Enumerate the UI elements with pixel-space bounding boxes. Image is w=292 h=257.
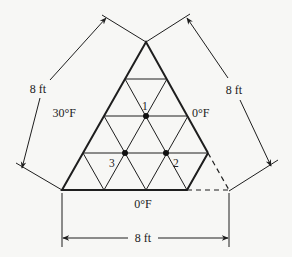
node-1-label: 1	[142, 100, 148, 112]
nodes	[122, 113, 169, 156]
bottom-edge-temperature: 0°F	[134, 197, 152, 211]
mesh-diagram: 1 2 3 30°F 0°F 0°F 8 ft 8 ft 8 ft	[0, 0, 292, 257]
left-dim-line-lower	[22, 98, 40, 168]
node-2-label: 2	[173, 157, 179, 169]
left-extension-bottom	[16, 163, 62, 190]
right-dim-line-upper	[187, 18, 228, 78]
right-edge-temperature: 0°F	[192, 106, 210, 120]
left-dimension-label: 8 ft	[30, 82, 47, 96]
left-edge-temperature: 30°F	[53, 106, 77, 120]
left-extension-top	[102, 15, 146, 42]
right-dim-line-lower	[240, 100, 271, 166]
bottom-dimension-label: 8 ft	[135, 231, 152, 245]
dashed-corner	[187, 153, 229, 190]
right-dimension-label: 8 ft	[226, 83, 243, 97]
node-2-dot	[163, 150, 169, 156]
left-dimension	[16, 15, 146, 190]
node-1-dot	[143, 113, 149, 119]
left-dim-line-upper	[50, 18, 106, 80]
diagram-canvas: 1 2 3 30°F 0°F 0°F 8 ft 8 ft 8 ft	[0, 0, 292, 257]
right-extension-top	[146, 14, 190, 42]
node-3-dot	[122, 150, 128, 156]
mesh-interior-lines	[83, 79, 208, 190]
right-dimension	[146, 14, 278, 191]
node-3-label: 3	[109, 157, 115, 169]
